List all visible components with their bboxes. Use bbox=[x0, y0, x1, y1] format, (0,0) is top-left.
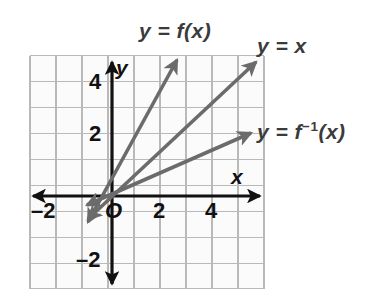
curve-label-identity: y = x bbox=[257, 35, 307, 56]
y-tick-4: 4 bbox=[89, 71, 101, 93]
coordinate-plane bbox=[0, 0, 391, 296]
curve-label-f-inverse-exponent: −1 bbox=[302, 119, 318, 134]
origin-label: O bbox=[105, 200, 122, 222]
y-axis-label: y bbox=[116, 57, 128, 78]
x-tick-minus-2: –2 bbox=[31, 200, 55, 222]
graph-figure: y = f(x) y = x y = f−1(x) x y –2 O 2 4 4… bbox=[0, 0, 391, 296]
x-tick-2: 2 bbox=[153, 200, 165, 222]
y-tick-minus-2: –2 bbox=[76, 249, 100, 271]
curve-label-f-inverse-tail: (x) bbox=[318, 120, 345, 143]
x-tick-4: 4 bbox=[205, 200, 217, 222]
y-tick-2: 2 bbox=[89, 123, 101, 145]
grid-background bbox=[30, 56, 264, 289]
curve-label-f-inverse: y = f−1(x) bbox=[257, 120, 346, 142]
x-axis-label: x bbox=[231, 166, 243, 187]
curve-label-f-of-x: y = f(x) bbox=[139, 20, 211, 41]
curve-label-f-inverse-lead: y = f bbox=[257, 120, 302, 143]
